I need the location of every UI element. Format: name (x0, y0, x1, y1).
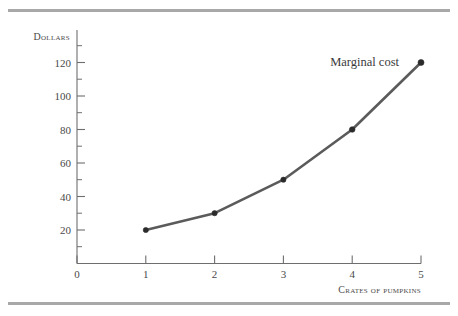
y-axis-minor-ticks (77, 46, 82, 247)
marginal-cost-line (146, 63, 421, 231)
data-point (418, 60, 424, 66)
y-tick-label-60: 60 (60, 157, 72, 169)
x-tick-label-4: 4 (349, 268, 355, 280)
x-tick-label-1: 1 (143, 268, 149, 280)
data-point (281, 177, 286, 182)
series-label-marginal-cost: Marginal cost (330, 55, 399, 69)
x-tick-label-0: 0 (74, 268, 80, 280)
x-axis-title: Crates of pumpkins (338, 284, 421, 295)
y-axis-tick-labels: 120 100 80 60 40 20 (55, 57, 72, 237)
x-axis-tick-labels: 0 1 2 3 4 5 (74, 268, 424, 280)
marginal-cost-points (143, 60, 424, 233)
y-axis-title: Dollars (33, 31, 70, 42)
data-point (143, 227, 148, 232)
data-point (349, 127, 355, 133)
y-tick-label-40: 40 (60, 191, 72, 203)
x-axis-ticks (77, 256, 421, 264)
y-tick-label-20: 20 (60, 224, 72, 236)
y-tick-label-120: 120 (55, 57, 72, 69)
marginal-cost-chart: 120 100 80 60 40 20 0 1 2 3 4 5 Dollars … (0, 0, 458, 316)
data-point (212, 211, 217, 216)
x-tick-label-2: 2 (212, 268, 218, 280)
y-tick-label-80: 80 (60, 124, 72, 136)
x-tick-label-5: 5 (418, 268, 424, 280)
y-tick-label-100: 100 (55, 90, 72, 102)
x-tick-label-3: 3 (281, 268, 287, 280)
